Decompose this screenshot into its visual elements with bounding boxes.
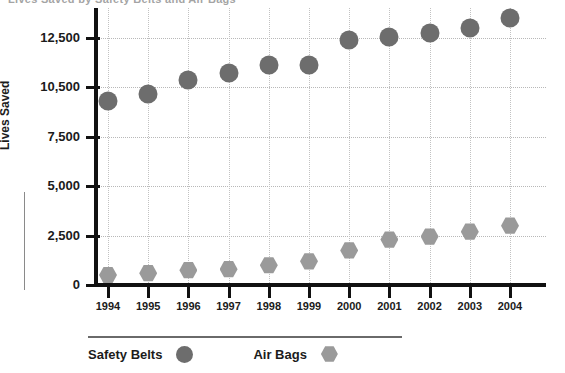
data-point-air-bags	[300, 252, 318, 270]
vertical-gridline	[510, 8, 511, 285]
data-point-safety-belts	[420, 24, 439, 43]
x-axis-tick-label: 1995	[125, 300, 171, 312]
y-axis-line	[94, 8, 98, 287]
y-axis-tick-label: 2,500	[18, 228, 80, 243]
data-point-safety-belts	[460, 19, 479, 38]
y-axis-tick-label: 0	[18, 277, 80, 292]
data-point-air-bags	[179, 261, 197, 279]
circle-marker-icon	[176, 346, 193, 363]
x-axis-tick	[107, 287, 110, 298]
legend-item-safety-belts: Safety Belts	[88, 346, 193, 363]
y-axis-tick	[86, 37, 100, 40]
hexagon-marker-icon	[321, 346, 338, 363]
horizontal-gridline	[96, 236, 546, 237]
x-axis-tick-label: 2001	[366, 300, 412, 312]
data-point-air-bags	[99, 266, 117, 284]
data-point-safety-belts	[179, 70, 198, 89]
legend-divider	[88, 336, 402, 338]
legend-label-air-bags: Air Bags	[253, 347, 306, 362]
data-point-air-bags	[220, 260, 238, 278]
y-axis-tick-label: 5,000	[18, 178, 80, 193]
y-axis-title: Lives Saved	[0, 81, 12, 150]
x-axis-tick	[509, 287, 512, 298]
y-axis-tick	[86, 86, 100, 89]
vertical-gridline	[188, 8, 189, 285]
x-axis-tick	[388, 287, 391, 298]
data-point-safety-belts	[259, 56, 278, 75]
x-axis-tick-label: 2004	[487, 300, 533, 312]
vertical-gridline	[269, 8, 270, 285]
x-axis-tick-label: 1999	[286, 300, 332, 312]
data-point-safety-belts	[99, 92, 118, 111]
x-axis-tick-label: 2003	[447, 300, 493, 312]
x-axis-tick	[348, 287, 351, 298]
vertical-gridline	[309, 8, 310, 285]
data-point-air-bags	[340, 241, 358, 259]
data-point-air-bags	[421, 228, 439, 246]
x-axis-tick-label: 1998	[246, 300, 292, 312]
legend-label-safety-belts: Safety Belts	[88, 347, 162, 362]
x-axis-tick	[268, 287, 271, 298]
y-axis-tick-label: 12,500	[18, 30, 80, 45]
x-axis-tick-label: 2000	[326, 300, 372, 312]
y-axis-tick	[86, 284, 100, 287]
horizontal-gridline	[96, 186, 546, 187]
chart-legend: Safety Belts Air Bags	[88, 342, 418, 366]
y-axis-tick	[86, 185, 100, 188]
x-axis-tick	[228, 287, 231, 298]
data-point-safety-belts	[219, 63, 238, 82]
chart-figure: Lives Saved by Safety Belts and Air Bags…	[0, 0, 565, 373]
x-axis-tick-label: 1997	[206, 300, 252, 312]
x-axis-tick-label: 2002	[407, 300, 453, 312]
vertical-gridline	[148, 8, 149, 285]
y-axis-tick-label: 7,500	[18, 129, 80, 144]
plot-area	[96, 8, 546, 285]
x-axis-tick-label: 1994	[85, 300, 131, 312]
data-point-safety-belts	[300, 56, 319, 75]
legend-item-air-bags: Air Bags	[253, 346, 337, 363]
x-axis-line	[94, 283, 546, 287]
x-axis-tick	[187, 287, 190, 298]
data-point-safety-belts	[340, 31, 359, 50]
vertical-gridline	[108, 8, 109, 285]
vertical-gridline	[470, 8, 471, 285]
y-axis-tick	[86, 235, 100, 238]
horizontal-gridline	[96, 87, 546, 88]
vertical-gridline	[229, 8, 230, 285]
y-axis-tick	[86, 136, 100, 139]
x-axis-tick	[308, 287, 311, 298]
clipped-title: Lives Saved by Safety Belts and Air Bags	[8, 0, 236, 5]
data-point-air-bags	[260, 256, 278, 274]
x-axis-tick	[469, 287, 472, 298]
data-point-air-bags	[501, 217, 519, 235]
horizontal-gridline	[96, 38, 546, 39]
data-point-air-bags	[380, 231, 398, 249]
x-axis-tick	[147, 287, 150, 298]
data-point-safety-belts	[501, 9, 520, 28]
data-point-air-bags	[139, 264, 157, 282]
x-axis-tick	[429, 287, 432, 298]
data-point-air-bags	[461, 223, 479, 241]
data-point-safety-belts	[380, 27, 399, 46]
y-axis-tick-label: 10,500	[18, 79, 80, 94]
data-point-safety-belts	[139, 84, 158, 103]
legend-spacer	[193, 354, 253, 355]
horizontal-gridline	[96, 137, 546, 138]
x-axis-tick-label: 1996	[165, 300, 211, 312]
